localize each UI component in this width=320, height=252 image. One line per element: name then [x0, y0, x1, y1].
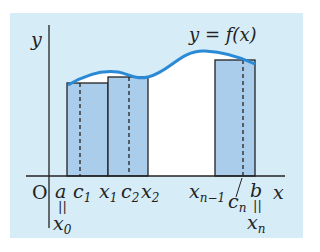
y-axis-label: y [31, 30, 42, 49]
x-axis-label: x [273, 183, 284, 202]
origin-label: O [32, 183, 48, 202]
tick-c1: c1 [73, 182, 91, 204]
rect-2 [108, 77, 148, 176]
tick-xn-1: xn−1 [189, 182, 225, 204]
tick-xn: xn [247, 213, 265, 235]
rect-n [215, 60, 255, 176]
tick-c2: c2 [121, 182, 139, 204]
tick-x0: x0 [53, 214, 71, 236]
tick-x1: x1 [99, 182, 117, 204]
tick-x2: x2 [141, 182, 159, 204]
rect-1 [67, 83, 108, 176]
function-label: y = f(x) [189, 26, 257, 44]
tick-cn: cn [228, 192, 246, 214]
